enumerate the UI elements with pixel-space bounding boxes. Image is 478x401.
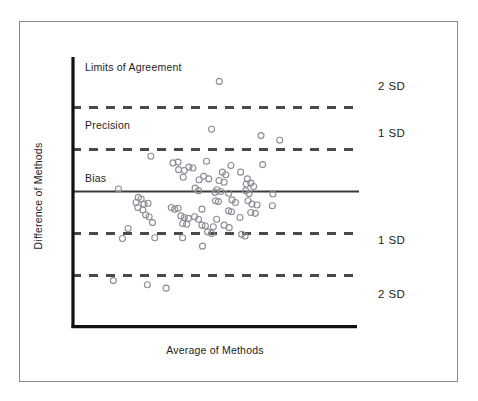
scatter-point	[163, 285, 169, 291]
scatter-point	[199, 206, 205, 212]
scatter-point	[238, 169, 244, 175]
scatter-point	[226, 225, 232, 231]
sd-label-lower-1sd: 1 SD	[378, 234, 405, 246]
annotation-precision: Precision	[85, 119, 130, 131]
scatter-point	[203, 158, 209, 164]
scatter-point	[237, 215, 243, 221]
scatter-point	[209, 126, 215, 132]
scatter-points-group	[110, 78, 282, 291]
scatter-point	[200, 243, 206, 249]
scatter-point	[119, 236, 125, 242]
scatter-point	[190, 165, 196, 171]
scatter-point	[269, 203, 275, 209]
x-axis-title: Average of Methods	[0, 344, 430, 356]
sd-label-upper-2sd: 2 SD	[378, 80, 405, 92]
annotation-limits-of-agreement: Limits of Agreement	[85, 61, 182, 73]
scatter-point	[258, 133, 264, 139]
sd-label-upper-1sd: 1 SD	[378, 127, 405, 139]
scatter-point	[206, 176, 212, 182]
scatter-point	[180, 174, 186, 180]
scatter-point	[185, 215, 191, 221]
scatter-point	[150, 220, 156, 226]
scatter-point	[110, 278, 116, 284]
scatter-point	[277, 137, 283, 143]
scatter-point	[176, 167, 182, 173]
scatter-point	[148, 153, 154, 159]
bland-altman-figure: Limits of Agreement Precision Bias 2 SD …	[0, 0, 478, 401]
scatter-point	[144, 282, 150, 288]
annotation-bias: Bias	[85, 172, 106, 184]
scatter-point	[216, 78, 222, 84]
scatter-point	[152, 235, 158, 241]
plot-canvas	[0, 0, 478, 401]
scatter-point	[228, 162, 234, 168]
scatter-point	[245, 198, 251, 204]
scatter-point	[210, 224, 216, 230]
sd-label-lower-2sd: 2 SD	[378, 288, 405, 300]
scatter-point	[125, 225, 131, 231]
scatter-point	[214, 216, 220, 222]
scatter-point	[260, 162, 266, 168]
reference-lines-group	[72, 107, 359, 275]
scatter-point	[180, 235, 186, 241]
scatter-point	[184, 221, 190, 227]
scatter-point	[145, 200, 151, 206]
y-axis-title: Difference of Methods	[32, 96, 44, 296]
